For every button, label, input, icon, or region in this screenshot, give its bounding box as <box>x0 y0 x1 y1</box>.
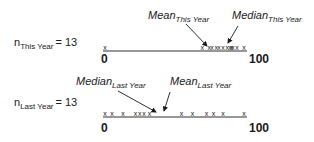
tick-100-last-year: 100 <box>249 121 269 135</box>
tick-100-this-year: 100 <box>249 52 269 66</box>
annotation-mean-this-year: MeanThis Year <box>148 9 210 24</box>
data-point-x-mark: x <box>180 110 184 117</box>
data-point-x-mark: x <box>235 44 239 51</box>
data-point-x-mark: x <box>110 110 114 117</box>
tick-0-this-year: 0 <box>101 52 108 66</box>
plot-last-year: nLast Year= 13 xxxxxxxxxxxxx 0 100 Media… <box>14 75 269 135</box>
arrow-mean-last-year <box>164 92 170 111</box>
annotation-median-this-year: MedianThis Year <box>232 9 302 24</box>
plot-this-year: nThis Year= 13 xxxxxxxxxxxxx 0 100 MeanT… <box>14 9 302 66</box>
arrow-mean-this-year <box>186 24 207 46</box>
data-point-x-mark: x <box>205 110 209 117</box>
data-point-x-mark: x <box>201 44 205 51</box>
data-point-x-mark: x <box>121 110 125 117</box>
annotation-mean-last-year: MeanLast Year <box>170 75 232 90</box>
data-point-x-mark: x <box>242 110 246 117</box>
data-point-x-mark: x <box>103 44 107 51</box>
data-marks-last-year: xxxxxxxxxxxxx <box>103 110 246 117</box>
data-marks-this-year: xxxxxxxxxxxxx <box>103 44 246 51</box>
n-label-last-year: nLast Year= 13 <box>14 96 77 111</box>
arrow-median-last-year <box>118 91 156 112</box>
annotation-median-last-year: MedianLast Year <box>76 75 146 90</box>
data-point-x-mark: x <box>221 110 225 117</box>
data-point-x-mark: x <box>191 110 195 117</box>
n-label-this-year: nThis Year= 13 <box>14 36 77 51</box>
data-point-x-mark: x <box>148 110 152 117</box>
data-point-x-mark: x <box>103 110 107 117</box>
tick-0-last-year: 0 <box>101 121 108 135</box>
data-point-x-mark: x <box>242 44 246 51</box>
arrow-median-this-year <box>228 26 238 43</box>
dot-plot-figure: nThis Year= 13 xxxxxxxxxxxxx 0 100 MeanT… <box>0 0 314 142</box>
data-point-x-mark: x <box>142 110 146 117</box>
data-point-x-mark: x <box>212 110 216 117</box>
